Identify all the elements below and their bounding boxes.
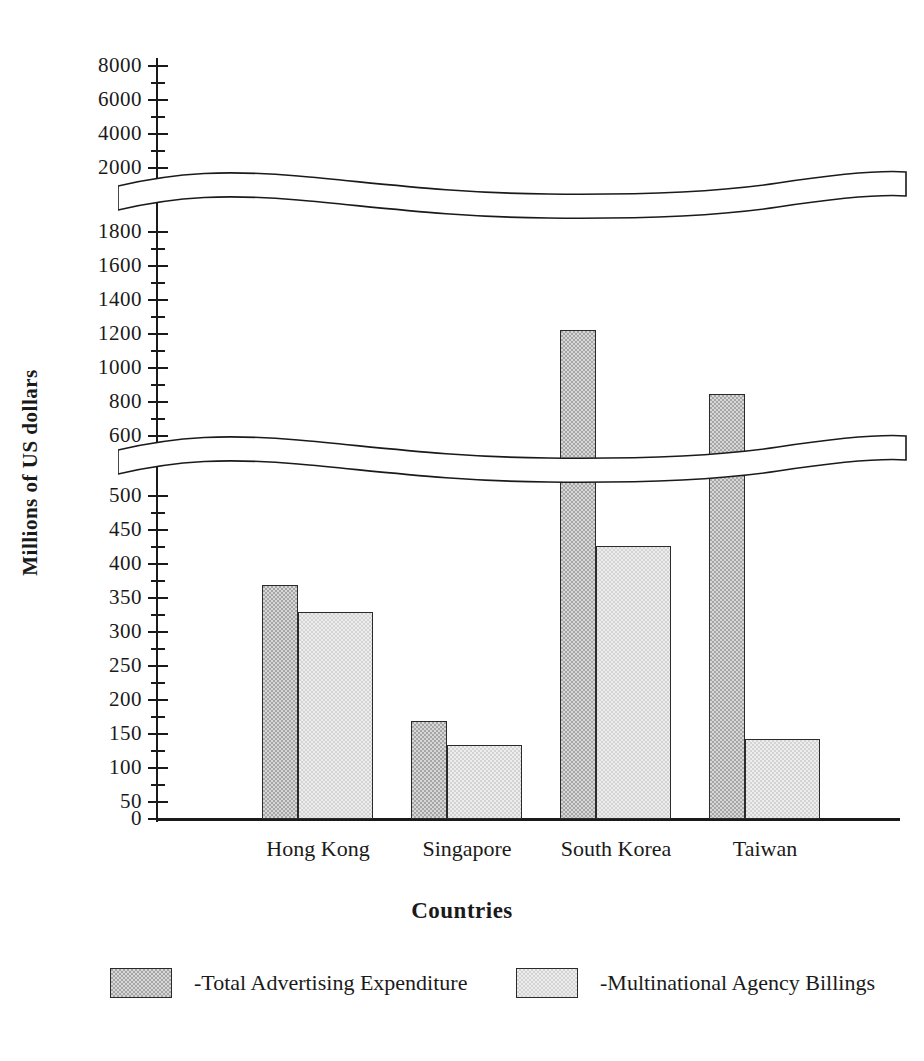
y-tick-minor-1: [151, 116, 165, 118]
plot-area: 8000600040002000180016001400120010008006…: [0, 0, 924, 1061]
y-tick-label: 400: [32, 553, 142, 574]
bar-south-korea-multinational: [596, 546, 671, 819]
bar-hong-kong-multinational: [298, 612, 373, 819]
y-tick-6000: [148, 99, 168, 101]
legend-swatch-light-icon: [516, 968, 578, 998]
y-tick-minor-8: [151, 384, 165, 386]
axis-break-upper-icon: [118, 166, 908, 224]
y-tick-minor-4: [151, 248, 165, 250]
y-tick-label: 800: [32, 391, 142, 412]
y-tick-label: 4000: [32, 123, 142, 144]
chart-legend: -Total Advertising Expenditure -Multinat…: [0, 968, 924, 1018]
y-tick-minor-12: [151, 546, 165, 548]
y-tick-minor-13: [151, 580, 165, 582]
y-tick-label: 100: [32, 757, 142, 778]
x-axis-title: Countries: [0, 898, 924, 924]
y-tick-450: [148, 529, 168, 531]
y-tick-minor-9: [151, 418, 165, 420]
y-tick-1800: [148, 231, 168, 233]
y-tick-label: 250: [32, 655, 142, 676]
y-tick-100: [148, 767, 168, 769]
y-tick-label: 8000: [32, 55, 142, 76]
y-tick-label: 600: [32, 425, 142, 446]
y-tick-minor-17: [151, 716, 165, 718]
y-tick-label: 500: [32, 485, 142, 506]
y-tick-1000: [148, 367, 168, 369]
y-tick-minor-0: [151, 82, 165, 84]
legend-item-total-advertising-expenditure: -Total Advertising Expenditure: [110, 968, 467, 998]
y-tick-1200: [148, 333, 168, 335]
legend-item-multinational-agency-billings: -Multinational Agency Billings: [516, 968, 875, 998]
y-tick-300: [148, 631, 168, 633]
y-tick-350: [148, 597, 168, 599]
y-tick-150: [148, 733, 168, 735]
y-tick-label: 1600: [32, 255, 142, 276]
bar-taiwan-total: [709, 394, 745, 819]
y-tick-400: [148, 563, 168, 565]
y-tick-minor-5: [151, 282, 165, 284]
y-tick-label: 150: [32, 723, 142, 744]
y-tick-minor-7: [151, 350, 165, 352]
bar-south-korea-total: [560, 330, 596, 819]
y-axis-title: Millions of US dollars: [18, 293, 43, 653]
bar-chart: 8000600040002000180016001400120010008006…: [0, 0, 924, 1061]
y-tick-minor-6: [151, 316, 165, 318]
y-tick-1400: [148, 299, 168, 301]
y-tick-label: 200: [32, 689, 142, 710]
x-label-taiwan: Taiwan: [665, 836, 865, 862]
y-tick-4000: [148, 133, 168, 135]
y-tick-800: [148, 401, 168, 403]
y-tick-500: [148, 495, 168, 497]
legend-label: -Multinational Agency Billings: [600, 970, 875, 996]
y-tick-label: 1200: [32, 323, 142, 344]
y-tick-250: [148, 665, 168, 667]
y-tick-label: 1400: [32, 289, 142, 310]
legend-label: -Total Advertising Expenditure: [194, 970, 467, 996]
y-tick-minor-15: [151, 648, 165, 650]
y-tick-1600: [148, 265, 168, 267]
bar-singapore-total: [411, 721, 447, 819]
y-tick-label: 1800: [32, 221, 142, 242]
y-tick-50: [148, 801, 168, 803]
y-tick-600: [148, 435, 168, 437]
y-tick-minor-19: [151, 784, 165, 786]
y-tick-minor-2: [151, 150, 165, 152]
y-tick-label: 300: [32, 621, 142, 642]
y-tick-minor-14: [151, 614, 165, 616]
y-tick-200: [148, 699, 168, 701]
y-axis-line: [156, 58, 158, 822]
y-tick-minor-11: [151, 512, 165, 514]
bar-taiwan-multinational: [745, 739, 820, 819]
y-tick-label: 6000: [32, 89, 142, 110]
y-tick-minor-18: [151, 750, 165, 752]
y-tick-8000: [148, 65, 168, 67]
legend-swatch-dark-icon: [110, 968, 172, 998]
y-tick-label: 350: [32, 587, 142, 608]
bar-hong-kong-total: [262, 585, 298, 819]
y-tick-label: 0: [32, 808, 142, 829]
axis-break-lower-icon: [118, 428, 908, 488]
y-tick-label: 1000: [32, 357, 142, 378]
y-tick-0: [148, 818, 168, 820]
y-tick-label: 450: [32, 519, 142, 540]
y-tick-minor-16: [151, 682, 165, 684]
y-tick-label: 2000: [32, 157, 142, 178]
y-tick-2000: [148, 167, 168, 169]
bar-singapore-multinational: [447, 745, 522, 819]
